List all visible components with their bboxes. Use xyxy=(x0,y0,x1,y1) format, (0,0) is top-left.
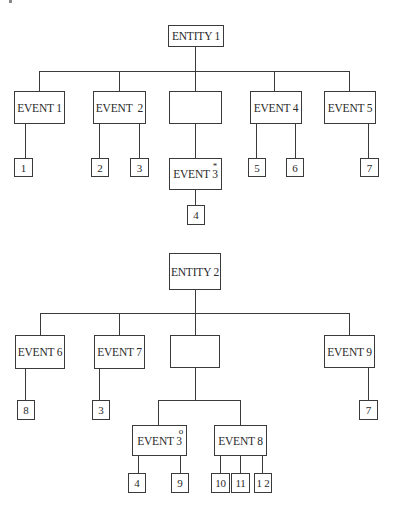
connector xyxy=(40,313,350,314)
event-label: EVENT 5 xyxy=(328,102,373,114)
leaf-node: 4 xyxy=(128,473,146,493)
connector xyxy=(119,71,120,91)
connector xyxy=(195,124,196,158)
leaf-label: 3 xyxy=(137,162,142,174)
entity-1-label: ENTITY 1 xyxy=(172,30,220,42)
event-8-node: EVENT 8 xyxy=(214,425,267,456)
leaf-label: 10 xyxy=(215,477,226,489)
leaf-node: 8 xyxy=(17,400,35,420)
event-label: EVENT 7 xyxy=(97,346,142,358)
leaf-label: 4 xyxy=(134,477,139,489)
connector xyxy=(295,124,296,158)
event-6-node: EVENT 6 xyxy=(15,335,65,369)
connector xyxy=(240,456,241,473)
leaf-label: 8 xyxy=(23,404,28,416)
event-label: EVENT 6 xyxy=(18,346,63,358)
connector xyxy=(349,71,350,91)
connector xyxy=(240,400,241,425)
leaf-label: 6 xyxy=(292,162,297,174)
leaf-label: 5 xyxy=(254,162,259,174)
event-label: EVENT 1 xyxy=(17,102,62,114)
connector xyxy=(195,190,196,205)
leaf-label: 9 xyxy=(177,477,182,489)
leaf-node: 4 xyxy=(187,205,205,225)
event-label: EVENT 8 xyxy=(218,435,263,447)
leaf-node: 5 xyxy=(248,158,266,177)
leaf-label: 3 xyxy=(98,404,103,416)
leaf-node: 2 xyxy=(91,158,109,177)
connector xyxy=(99,369,100,400)
entity-2-label: ENTITY 2 xyxy=(171,266,219,278)
connector xyxy=(256,124,257,158)
leaf-node: 3 xyxy=(130,158,149,177)
leaf-node: 6 xyxy=(286,158,304,177)
entity-1-node: ENTITY 1 xyxy=(168,25,224,47)
connector xyxy=(40,313,41,335)
event-2-node: EVENT 2 xyxy=(93,91,146,124)
connector xyxy=(180,456,181,473)
connector xyxy=(138,456,139,473)
connector xyxy=(195,47,196,91)
connector xyxy=(119,313,120,335)
connector xyxy=(158,400,159,425)
leaf-label: 4 xyxy=(193,209,198,221)
scan-artifact xyxy=(9,0,12,3)
leaf-label: 7 xyxy=(366,404,371,416)
leaf-label: 11 xyxy=(235,477,245,489)
leaf-node: 3 xyxy=(92,400,110,420)
event-label: EVENT 9 xyxy=(327,346,372,358)
empty-node xyxy=(169,91,222,124)
connector xyxy=(220,456,221,473)
leaf-node: 7 xyxy=(359,400,378,420)
event-3-circle-node: EVENT 3 o xyxy=(132,425,187,456)
connector xyxy=(39,71,40,91)
connector xyxy=(39,71,350,72)
event-4-node: EVENT 4 xyxy=(250,91,302,124)
leaf-label: 1 xyxy=(21,162,26,174)
connector xyxy=(368,124,369,158)
asterisk-marker: * xyxy=(213,162,217,171)
leaf-node: 9 xyxy=(171,473,189,493)
connector xyxy=(158,400,241,401)
event-label: EVENT 4 xyxy=(254,102,299,114)
event-5-node: EVENT 5 xyxy=(324,91,376,124)
connector xyxy=(274,71,275,91)
leaf-label: 2 xyxy=(97,162,102,174)
circle-marker: o xyxy=(179,427,183,436)
event-label: EVENT 3 xyxy=(173,168,218,180)
connector xyxy=(139,124,140,158)
connector xyxy=(25,369,26,400)
empty-node xyxy=(170,335,220,368)
connector xyxy=(25,124,26,158)
connector xyxy=(195,368,196,400)
leaf-node: 7 xyxy=(360,158,379,177)
connector xyxy=(368,368,369,400)
leaf-node: 1 2 xyxy=(254,473,272,493)
leaf-node: 10 xyxy=(211,473,230,493)
leaf-node: 11 xyxy=(231,473,250,493)
event-9-node: EVENT 9 xyxy=(324,335,375,368)
event-3-star-node: EVENT 3 * xyxy=(169,158,222,190)
leaf-label: 7 xyxy=(367,162,372,174)
event-label: EVENT 3 xyxy=(137,435,182,447)
leaf-label: 1 2 xyxy=(256,477,269,489)
event-1-node: EVENT 1 xyxy=(14,91,65,124)
connector xyxy=(349,313,350,335)
entity-2-node: ENTITY 2 xyxy=(169,253,221,290)
connector xyxy=(262,456,263,473)
leaf-node: 1 xyxy=(14,158,33,177)
event-7-node: EVENT 7 xyxy=(94,335,145,369)
connector xyxy=(99,124,100,158)
event-label: EVENT 2 xyxy=(96,102,143,114)
